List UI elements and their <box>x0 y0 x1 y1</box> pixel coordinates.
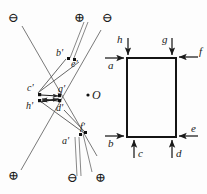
force-rectangle-outline <box>127 58 176 137</box>
node-cprime <box>38 93 41 96</box>
point-label-g-prime: g' <box>58 84 65 94</box>
node-hprime <box>38 99 41 102</box>
node-bprime <box>67 57 70 60</box>
force-label-a: a <box>108 60 114 71</box>
force-label-g: g <box>162 34 168 45</box>
point-label-h-prime: h' <box>26 101 33 111</box>
charge-symbol-top-mid: ⊕ <box>74 11 85 24</box>
force-label-d: d <box>176 148 182 159</box>
node-aprime <box>79 133 82 136</box>
point-label-e-prime: e' <box>71 59 78 69</box>
top-axis-line-left <box>70 22 84 58</box>
force-label-e: e <box>191 123 196 134</box>
point-label-d-prime: d' <box>56 103 63 113</box>
force-arrow-vectors <box>105 38 198 158</box>
point-label-b-prime: b' <box>56 48 63 58</box>
charge-symbol-bottom-right: ⊕ <box>95 171 106 184</box>
arrow-cprime-to-gprime <box>41 95 58 96</box>
force-label-f: f <box>199 46 202 57</box>
charge-symbol-bottom-mid: ⊖ <box>67 171 78 184</box>
figure-vector-layer <box>0 0 207 194</box>
cluster-arrows <box>41 95 59 102</box>
bottom-axis-line-right <box>79 137 81 176</box>
charge-symbol-top-left: ⊖ <box>8 11 19 24</box>
charge-symbol-bottom-left: ⊕ <box>8 169 19 182</box>
node-center-o <box>86 93 89 96</box>
charge-symbol-top-right: ⊖ <box>102 11 113 24</box>
point-label-f-prime: f' <box>80 122 85 132</box>
force-label-h: h <box>117 34 123 45</box>
top-axis-line-right <box>74 22 88 58</box>
point-label-c-prime: c' <box>27 83 34 93</box>
force-label-c: c <box>138 148 143 159</box>
node-gprime <box>58 94 61 97</box>
center-point-label-o: O <box>92 89 101 101</box>
optics-force-figure: ⊖ ⊕ ⊖ ⊕ ⊖ ⊕ b' e' c' g' h' d' f' a' O h … <box>0 0 207 194</box>
force-label-b: b <box>108 138 114 149</box>
vertical-axis-lines <box>70 22 92 176</box>
point-label-a-prime: a' <box>62 136 69 146</box>
